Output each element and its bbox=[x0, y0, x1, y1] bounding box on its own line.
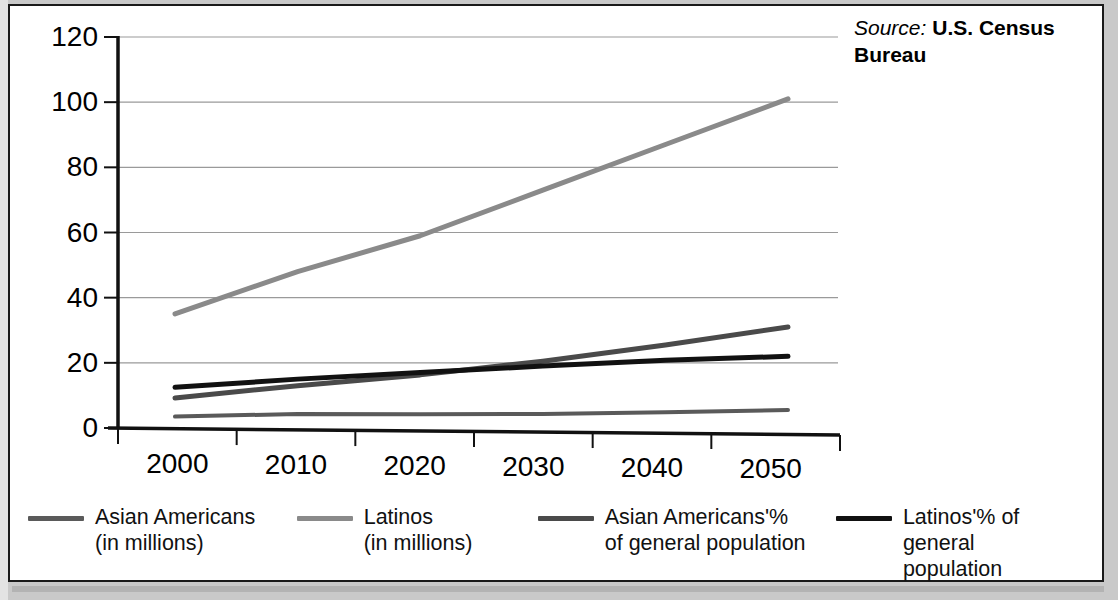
card-drop-shadow bbox=[12, 586, 1104, 592]
y-tick-label-40: 40 bbox=[67, 282, 98, 313]
chart-plot-area: 020406080100120200020102020203020402050 bbox=[10, 6, 1106, 506]
legend-swatch-0 bbox=[28, 516, 84, 521]
data-series bbox=[175, 99, 788, 417]
legend-label-0: Asian Americans (in millions) bbox=[95, 504, 255, 556]
legend-item-3[interactable]: Latinos'% of general population bbox=[836, 504, 1066, 582]
chart-legend: Asian Americans (in millions)Latinos (in… bbox=[28, 504, 1088, 574]
legend-swatch-1 bbox=[297, 516, 353, 521]
series-line-0 bbox=[175, 410, 788, 417]
line-chart-svg: 020406080100120200020102020203020402050 bbox=[10, 6, 1106, 506]
page-background: Source: U.S. Census Bureau 0204060801001… bbox=[0, 0, 1118, 600]
legend-label-1: Latinos (in millions) bbox=[364, 504, 473, 556]
series-line-1 bbox=[175, 99, 788, 314]
legend-swatch-3 bbox=[836, 516, 892, 521]
legend-label-3: Latinos'% of general population bbox=[903, 504, 1066, 582]
series-line-3 bbox=[175, 356, 788, 387]
x-tick-label-2000: 2000 bbox=[146, 448, 208, 479]
legend-item-0[interactable]: Asian Americans (in millions) bbox=[28, 504, 275, 556]
x-tick-label-2050: 2050 bbox=[740, 453, 802, 484]
y-tick-label-0: 0 bbox=[82, 412, 98, 443]
x-tick-label-2030: 2030 bbox=[502, 451, 564, 482]
y-tick-label-60: 60 bbox=[67, 217, 98, 248]
legend-label-2: Asian Americans'% of general population bbox=[605, 504, 806, 556]
x-axis-ticks: 200020102020203020402050 bbox=[118, 428, 840, 484]
x-tick-label-2040: 2040 bbox=[621, 452, 683, 483]
legend-swatch-2 bbox=[538, 516, 594, 521]
legend-item-1[interactable]: Latinos (in millions) bbox=[297, 504, 516, 556]
y-tick-label-120: 120 bbox=[51, 21, 98, 52]
y-tick-label-80: 80 bbox=[67, 151, 98, 182]
x-tick-label-2020: 2020 bbox=[384, 450, 446, 481]
y-tick-label-100: 100 bbox=[51, 86, 98, 117]
x-tick-label-2010: 2010 bbox=[265, 449, 327, 480]
y-axis-ticks: 020406080100120 bbox=[51, 21, 118, 443]
y-tick-label-20: 20 bbox=[67, 347, 98, 378]
chart-card: Source: U.S. Census Bureau 0204060801001… bbox=[8, 4, 1104, 582]
legend-item-2[interactable]: Asian Americans'% of general population bbox=[538, 504, 814, 556]
page-left-gutter bbox=[0, 0, 8, 600]
